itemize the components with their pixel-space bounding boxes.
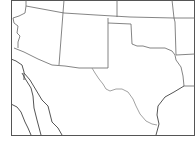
border-utah-arizona xyxy=(26,6,195,18)
coast-baja-north xyxy=(11,59,24,80)
border-oklahoma-arkansas xyxy=(175,22,176,55)
coast-sonora xyxy=(11,104,31,135)
coast-mainland-mexico xyxy=(24,73,62,135)
border-arizona-newmexico xyxy=(59,13,63,65)
border-us-mexico-arizona xyxy=(14,48,79,68)
outline-map xyxy=(0,0,196,146)
border-oklahoma-panhandle xyxy=(108,18,175,55)
border-arkansas-louisiana xyxy=(176,54,195,55)
rio-grande xyxy=(92,68,157,125)
border-texas-louisiana xyxy=(175,55,184,86)
border-kansas-missouri xyxy=(172,0,175,22)
texas-gulf-coast xyxy=(156,86,184,135)
border-arizona-california xyxy=(13,6,26,48)
border-utah-colorado xyxy=(63,0,64,13)
border-newmexico-texas xyxy=(79,23,108,68)
